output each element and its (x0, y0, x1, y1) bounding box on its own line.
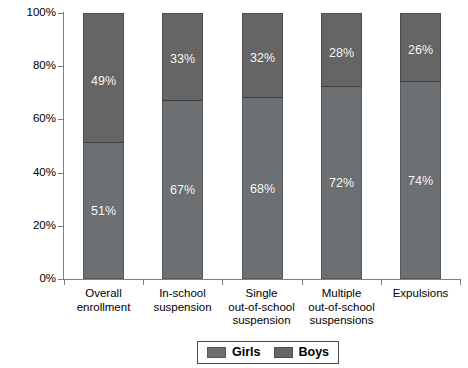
x-axis-tick (222, 280, 223, 285)
bar-segment-boys[interactable]: 32% (242, 13, 283, 98)
y-axis-tick (58, 279, 63, 280)
bar-group[interactable]: 26%74% (400, 13, 441, 279)
bar-segment-boys[interactable]: 33% (162, 13, 203, 101)
y-axis-tick (58, 173, 63, 174)
category-label-line: In-school (139, 287, 226, 301)
bar-value-label: 32% (250, 52, 275, 65)
x-axis-tick (302, 280, 303, 285)
x-axis-tick (460, 280, 461, 285)
legend-swatch-icon (207, 347, 226, 358)
bar-group[interactable]: 28%72% (321, 13, 362, 279)
category-label-line: Single (218, 287, 305, 301)
bar-value-label: 67% (170, 184, 195, 197)
legend-item-girls[interactable]: Girls (207, 346, 261, 359)
y-axis-tick (58, 66, 63, 67)
y-axis-tick (58, 226, 63, 227)
y-axis-label: 100% (2, 7, 56, 18)
bar-segment-boys[interactable]: 26% (400, 13, 441, 82)
chart-legend: GirlsBoys (197, 341, 339, 364)
category-label-line: enrollment (60, 301, 147, 315)
bar-value-label: 68% (250, 183, 275, 196)
x-axis-category-label: In-schoolsuspension (139, 287, 226, 314)
category-label-line: out-of-school (218, 301, 305, 315)
y-axis-tick (58, 13, 63, 14)
x-axis-category-label: Overallenrollment (60, 287, 147, 314)
category-label-line: out-of-school (298, 301, 385, 315)
category-label-line: Expulsions (377, 287, 464, 301)
x-axis-line (63, 279, 461, 280)
bar-segment-boys[interactable]: 28% (321, 13, 362, 87)
x-axis-category-label: Singleout-of-schoolsuspension (218, 287, 305, 328)
bar-value-label: 74% (408, 175, 433, 188)
bar-value-label: 26% (408, 44, 433, 57)
bar-segment-girls[interactable]: 67% (162, 101, 203, 279)
bar-segment-boys[interactable]: 49% (83, 13, 124, 143)
stacked-bar-chart: 100%80%60%40%20%0% 49%51%33%67%32%68%28%… (0, 0, 468, 368)
bar-segment-girls[interactable]: 68% (242, 98, 283, 279)
bar-group[interactable]: 33%67% (162, 13, 203, 279)
x-axis-tick (381, 280, 382, 285)
bar-value-label: 33% (170, 53, 195, 66)
x-axis-tick (64, 280, 65, 285)
x-axis-category-label: Multipleout-of-schoolsuspensions (298, 287, 385, 328)
bar-segment-girls[interactable]: 51% (83, 143, 124, 279)
y-axis-label: 0% (2, 273, 56, 284)
legend-item-boys[interactable]: Boys (274, 346, 330, 359)
legend-label: Girls (232, 346, 261, 359)
bar-group[interactable]: 49%51% (83, 13, 124, 279)
category-label-line: Multiple (298, 287, 385, 301)
legend-swatch-icon (274, 347, 293, 358)
bar-value-label: 28% (329, 47, 354, 60)
y-axis-label: 20% (2, 220, 56, 231)
category-label-line: suspension (218, 314, 305, 328)
bar-value-label: 72% (329, 177, 354, 190)
chart-title (0, 0, 468, 2)
y-axis-tick (58, 119, 63, 120)
category-label-line: suspension (139, 301, 226, 315)
y-axis-label: 40% (2, 167, 56, 178)
bar-group[interactable]: 32%68% (242, 13, 283, 279)
y-axis-label: 80% (2, 60, 56, 71)
bar-value-label: 49% (91, 75, 116, 88)
bar-segment-girls[interactable]: 74% (400, 82, 441, 279)
x-axis-tick (143, 280, 144, 285)
y-axis-label: 60% (2, 113, 56, 124)
bar-value-label: 51% (91, 205, 116, 218)
category-label-line: Overall (60, 287, 147, 301)
legend-label: Boys (299, 346, 330, 359)
x-axis-category-label: Expulsions (377, 287, 464, 301)
y-axis-line (63, 12, 64, 280)
category-label-line: suspensions (298, 314, 385, 328)
bar-segment-girls[interactable]: 72% (321, 87, 362, 279)
